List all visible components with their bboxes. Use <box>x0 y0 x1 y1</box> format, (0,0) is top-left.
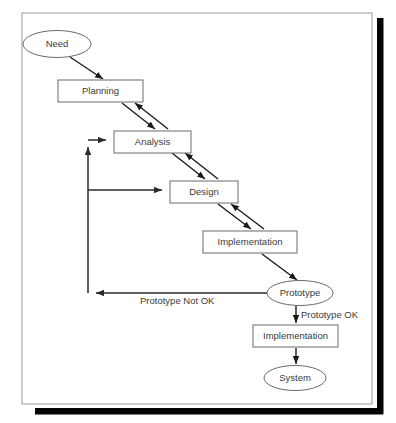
node-need[interactable]: Need <box>23 31 91 58</box>
node-implementation-final[interactable]: Implementation <box>253 325 338 347</box>
frame-shadow-bottom <box>35 408 383 415</box>
node-implementation[interactable]: Implementation <box>203 231 297 253</box>
node-design[interactable]: Design <box>170 181 238 203</box>
label-prototype-ok: Prototype OK <box>301 309 359 320</box>
node-system[interactable]: System <box>264 366 326 391</box>
design-label: Design <box>189 186 219 197</box>
node-analysis[interactable]: Analysis <box>114 131 191 153</box>
analysis-label: Analysis <box>135 136 171 147</box>
need-label: Need <box>46 38 69 49</box>
node-planning[interactable]: Planning <box>58 80 143 102</box>
implementation-label: Implementation <box>218 236 283 247</box>
diagram-canvas: Need Planning Analysis Design Implementa… <box>0 0 396 423</box>
prototyping-model-diagram: Need Planning Analysis Design Implementa… <box>0 0 396 423</box>
implementation-final-label: Implementation <box>263 330 328 341</box>
frame-shadow-right <box>377 18 384 414</box>
node-prototype[interactable]: Prototype <box>267 281 333 306</box>
label-prototype-not-ok: Prototype Not OK <box>140 295 215 306</box>
prototype-label: Prototype <box>280 287 321 298</box>
planning-label: Planning <box>82 85 119 96</box>
system-label: System <box>279 372 311 383</box>
